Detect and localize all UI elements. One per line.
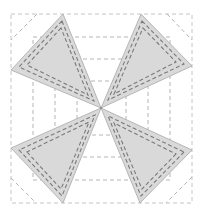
triangle-bottom-right (101, 108, 192, 203)
quilt-block-diagram (0, 0, 205, 212)
triangle-top-right (101, 14, 192, 108)
triangle-top-left (11, 14, 101, 108)
triangle-bottom-left (11, 108, 101, 203)
center-point (100, 107, 102, 109)
